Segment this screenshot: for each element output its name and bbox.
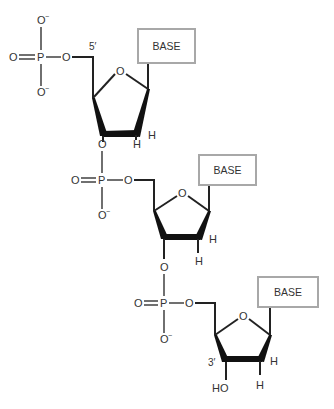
hydrogen: H (270, 355, 278, 367)
nucleotide-2: O O P O O − O H H BASE (71, 138, 256, 267)
five-prime-label: 5′ (89, 41, 97, 52)
phosphate-group-2: O O P O O − (71, 138, 133, 221)
hydrogen: H (209, 233, 217, 245)
bridge-oxygen: O (98, 138, 107, 150)
phosphorus: P (160, 297, 167, 309)
phosphorus: P (37, 51, 44, 63)
bridge-oxygen: O (160, 261, 169, 273)
nucleotide-3: O O P O O − O H H 3′ HO (134, 261, 318, 394)
phosphorus: P (98, 174, 105, 186)
nucleotide-1: O − O P O O − 5′ O H H (9, 13, 195, 150)
ring-oxygen: O (239, 310, 248, 322)
ring-oxygen: O (116, 65, 125, 77)
hydrogen: H (133, 138, 141, 150)
deoxyribose-ring-1: O H H (92, 63, 156, 150)
hydrogen: H (148, 129, 156, 141)
charge-minus: − (106, 208, 110, 215)
hydrogen: H (195, 255, 203, 267)
deoxyribose-ring-2: O H H (153, 185, 217, 267)
base-label-1: BASE (152, 40, 180, 52)
charge-minus: − (168, 332, 172, 339)
charge-minus: − (45, 13, 49, 20)
oxygen-double: O (71, 174, 80, 186)
base-label-2: BASE (213, 164, 241, 176)
ring-oxygen: O (178, 187, 187, 199)
charge-minus: − (45, 85, 49, 92)
phosphate-group-1: O − O P O O − (9, 13, 71, 98)
hydrogen: H (256, 379, 264, 391)
hydroxyl-group: HO (212, 382, 229, 394)
oxygen-ester: O (62, 51, 71, 63)
oxygen-ester: O (185, 297, 194, 309)
oxygen-double: O (9, 51, 18, 63)
base-label-3: BASE (274, 286, 302, 298)
oxygen-double: O (134, 297, 143, 309)
phosphate-group-3: O O P O O − (134, 261, 194, 345)
dna-strand-diagram: O − O P O O − 5′ O H H (0, 0, 334, 409)
oxygen-ester: O (124, 174, 133, 186)
three-prime-label: 3′ (208, 357, 216, 368)
deoxyribose-ring-3: O H H 3′ HO (208, 307, 278, 394)
